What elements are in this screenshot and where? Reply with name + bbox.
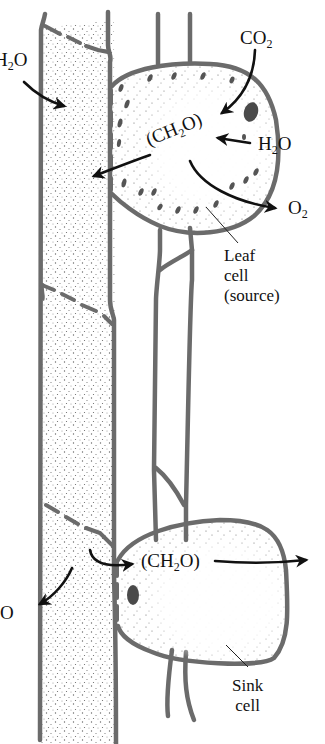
label-h2o-bottom-left: 2O: [0, 603, 14, 622]
label-leaf-cell-line2: cell: [224, 266, 280, 286]
sieve-tube: [40, 12, 116, 744]
label-h2o-top-left: H2O: [0, 50, 27, 69]
phloem-transport-diagram: [0, 0, 325, 744]
label-ch2o-sink: (CH2O): [141, 551, 200, 570]
label-h2o-source: H2O: [258, 134, 291, 153]
xylem-end-wall-bottom: [156, 468, 184, 505]
label-o2: O2: [288, 198, 308, 217]
label-sink-cell-line1: Sink: [232, 676, 263, 696]
label-sink-cell-line2: cell: [232, 696, 263, 716]
leaf-source-cell: [111, 64, 278, 243]
label-leaf-cell: Leaf cell (source): [224, 246, 280, 306]
sink-cell: [117, 520, 287, 667]
label-sink-cell: Sink cell: [232, 676, 263, 716]
sink-cell-nucleus: [127, 585, 139, 605]
xylem-end-wall-top: [160, 250, 192, 270]
label-leaf-cell-line1: Leaf: [224, 246, 280, 266]
sieve-tube-fill: [40, 20, 116, 744]
label-co2: CO2: [240, 28, 272, 47]
label-leaf-cell-line3: (source): [224, 286, 280, 306]
